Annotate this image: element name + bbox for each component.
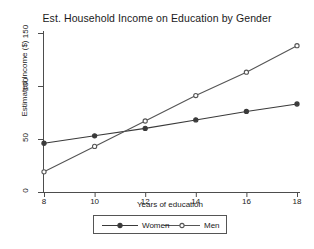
axis-lines: [44, 31, 301, 193]
data-point-men: [93, 144, 97, 148]
data-point-men: [295, 44, 299, 48]
x-tick-label: 14: [186, 197, 206, 206]
data-point-women: [194, 118, 198, 122]
plot-area: [0, 0, 314, 249]
data-point-women: [244, 109, 248, 113]
data-point-men: [194, 93, 198, 97]
y-tick-label: 0: [21, 179, 30, 203]
x-tick-label: 12: [135, 197, 155, 206]
x-axis-ticks: [45, 193, 298, 198]
y-tick-label: 100: [21, 73, 30, 97]
data-point-women: [42, 141, 46, 145]
data-point-men: [143, 119, 147, 123]
data-point-women: [295, 102, 299, 106]
legend-label-women: Women: [142, 221, 169, 230]
y-axis-ticks: [38, 34, 44, 193]
legend-label-men: Men: [204, 221, 220, 230]
data-point-men: [42, 170, 46, 174]
series-line-women: [44, 104, 297, 143]
data-point-women: [93, 134, 97, 138]
data-point-women: [143, 126, 147, 130]
x-tick-label: 10: [85, 197, 105, 206]
x-tick-label: 8: [34, 197, 54, 206]
x-tick-label: 18: [287, 197, 307, 206]
chart-figure: Est. Household Income on Education by Ge…: [0, 0, 314, 249]
y-tick-label: 50: [21, 126, 30, 150]
data-series-layer: [42, 44, 299, 174]
x-tick-label: 16: [236, 197, 256, 206]
y-tick-label: 150: [21, 20, 30, 44]
series-line-men: [44, 46, 297, 172]
chart-legend[interactable]: Women Men: [93, 215, 227, 234]
data-point-men: [244, 70, 248, 74]
